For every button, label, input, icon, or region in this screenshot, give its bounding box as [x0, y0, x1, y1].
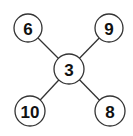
leaf-node-br: 8 [95, 96, 125, 126]
leaf-node-tl: 6 [14, 14, 42, 42]
star-diagram: 369108 [0, 0, 133, 136]
leaf-node-tr-label: 9 [104, 20, 113, 39]
center-node: 3 [54, 54, 84, 84]
center-node-label: 3 [64, 61, 73, 80]
leaf-node-tr: 9 [95, 14, 123, 42]
leaf-node-br-label: 8 [105, 103, 114, 122]
nodes: 369108 [14, 14, 125, 126]
leaf-node-tl-label: 6 [23, 20, 32, 39]
leaf-node-bl-label: 10 [21, 103, 40, 122]
leaf-node-bl: 10 [15, 96, 45, 126]
